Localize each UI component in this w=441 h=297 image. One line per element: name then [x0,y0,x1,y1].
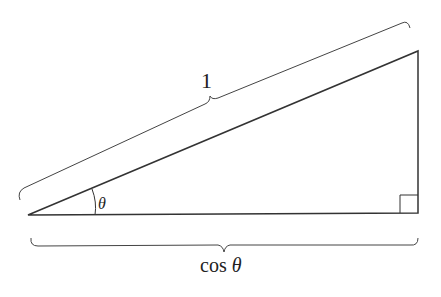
hypotenuse-label: 1 [201,68,212,94]
adjacent-label: cos θ [200,254,242,277]
adjacent-brace [31,238,418,252]
angle-label: θ [98,195,106,213]
triangle-diagram: 1 θ cos θ [0,0,441,297]
theta-text: θ [232,254,242,276]
cos-text: cos [200,254,227,276]
angle-arc [92,189,96,215]
hypotenuse-brace [19,22,410,200]
right-triangle [28,51,418,215]
triangle-figure [0,0,441,297]
right-angle-marker [400,195,418,213]
